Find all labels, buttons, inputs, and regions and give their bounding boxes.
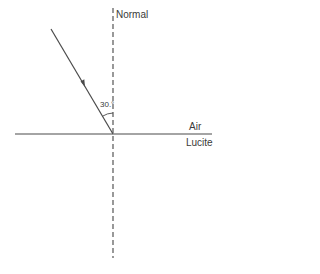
normal-label: Normal	[116, 10, 148, 20]
lucite-label: Lucite	[186, 138, 213, 148]
angle-arc	[103, 113, 114, 116]
incident-angle-label: 30.°	[100, 101, 114, 109]
air-label: Air	[189, 122, 201, 132]
